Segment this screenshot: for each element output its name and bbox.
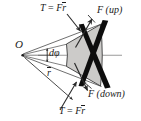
torque-symbol-bottom: T xyxy=(59,105,65,116)
diagram-canvas xyxy=(0,0,141,121)
equals-sign-top: = xyxy=(48,2,54,13)
torque-symbol-top: T xyxy=(40,2,46,13)
mean-radius-leader xyxy=(25,58,73,100)
label-torque-top: T = Fr xyxy=(40,3,66,13)
label-angle-dphi: dφ xyxy=(49,48,60,58)
label-force-down: F (down) xyxy=(88,89,125,99)
label-force-up: F (up) xyxy=(97,5,122,15)
torque-top-arrow xyxy=(67,14,81,31)
radius-overbar-top: r xyxy=(62,3,66,13)
torque-force-diagram: T = Fr F (up) O dφ r F (down) T = Fr xyxy=(0,0,141,121)
equals-sign-bottom: = xyxy=(67,105,73,116)
radius-overbar-leader: r xyxy=(47,68,51,78)
label-mean-radius: r xyxy=(47,68,51,78)
label-origin: O xyxy=(15,39,23,50)
radius-overbar-bottom: r xyxy=(81,106,85,116)
label-torque-bottom: T = Fr xyxy=(59,106,85,116)
